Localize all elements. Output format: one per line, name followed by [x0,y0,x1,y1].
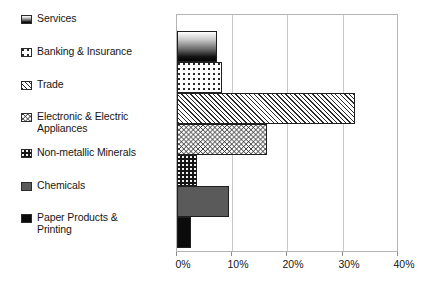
bar-paper-products-printing [177,217,191,248]
x-tick-label-30: 30% [338,258,359,270]
legend-item-banking-insurance: Banking & Insurance [21,45,132,57]
legend-label: Electronic & Electric Appliances [37,110,128,134]
legend-swatch-grey-icon [21,182,32,191]
horizontal-bar-chart: Services Banking & Insurance Trade Elect… [0,0,423,287]
tick-mark-20 [286,252,287,256]
legend-item-paper-products-printing: Paper Products & Printing [21,211,118,235]
legend-item-electronic-electric-appliances: Electronic & Electric Appliances [21,110,128,134]
x-tick-label-0: 0% [175,258,190,270]
legend-swatch-wave-icon [21,113,32,122]
tick-mark-40 [397,252,398,256]
x-axis-ticks [176,252,398,257]
legend-swatch-black-icon [21,214,32,223]
tick-mark-10 [231,252,232,256]
bar-services [177,31,217,62]
legend-swatch-dark-weave-icon [21,149,32,158]
legend-item-non-metallic-minerals: Non-metallic Minerals [21,146,136,158]
legend-label: Banking & Insurance [37,45,132,57]
plot-area [176,14,398,252]
x-tick-label-20: 20% [282,258,303,270]
bar-banking-insurance [177,62,222,93]
gridline-30 [343,15,344,251]
bar-chemicals [177,186,229,217]
chart-legend: Services Banking & Insurance Trade Elect… [0,0,176,287]
legend-label: Trade [37,78,64,90]
tick-mark-0 [176,252,177,256]
legend-label: Paper Products & Printing [37,211,118,235]
bar-electronic-electric-appliances [177,124,267,155]
bar-non-metallic-minerals [177,155,197,186]
legend-label: Chemicals [37,179,85,191]
tick-mark-30 [342,252,343,256]
gridline-20 [287,15,288,251]
legend-swatch-gradient-icon [21,15,32,24]
legend-swatch-diagonal-hatch-icon [21,81,32,90]
x-tick-label-10: 10% [227,258,248,270]
x-tick-label-40: 40% [393,258,414,270]
legend-swatch-sparse-dots-icon [21,48,32,57]
legend-item-chemicals: Chemicals [21,179,85,191]
bar-trade [177,93,355,124]
legend-item-trade: Trade [21,78,64,90]
legend-item-services: Services [21,12,76,24]
x-axis-labels: 0% 10% 20% 30% 40% [0,258,423,274]
legend-label: Services [37,12,76,24]
legend-label: Non-metallic Minerals [37,146,136,158]
